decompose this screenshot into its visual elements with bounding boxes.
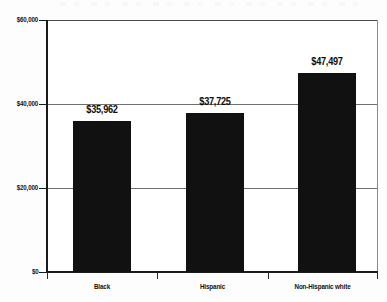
y-axis-label-20000: $20,000: [17, 184, 38, 191]
x-tick-1: [157, 272, 158, 279]
y-axis-label-40000: $40,000: [17, 100, 38, 107]
y-tick-60000: [39, 20, 47, 21]
y-tick-0: [39, 272, 47, 273]
bar-value-hispanic: $37,725: [188, 96, 241, 107]
bar-chart-screenshot: $60,000 $40,000 $20,000 $0 $35,962 $37,7…: [0, 0, 387, 302]
gridline-60000: [48, 20, 377, 21]
y-axis-label-60000: $60,000: [17, 16, 38, 23]
x-axis-label-non-hispanic-white: Non-Hispanic white: [273, 283, 371, 290]
bar-value-non-hispanic-white: $47,497: [300, 56, 353, 67]
scan-artifact: [60, 2, 360, 6]
x-axis-label-black: Black: [53, 283, 152, 290]
bar-hispanic: [186, 113, 244, 272]
bar-non-hispanic-white: [298, 73, 356, 272]
y-axis-label-0: $0: [31, 268, 38, 275]
bar-value-black: $35,962: [75, 104, 128, 115]
bar-black: [73, 121, 131, 272]
x-tick-left: [47, 272, 48, 279]
x-tick-2: [268, 272, 269, 279]
x-tick-right: [377, 272, 378, 279]
x-axis-label-hispanic: Hispanic: [163, 283, 263, 290]
y-tick-40000: [39, 104, 47, 105]
y-tick-20000: [39, 188, 47, 189]
